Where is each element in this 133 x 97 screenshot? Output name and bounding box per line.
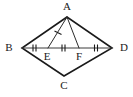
vertex-label-a: A xyxy=(63,0,71,12)
vertex-label-c: C xyxy=(60,79,67,91)
vertex-label-b: B xyxy=(5,41,12,53)
geometry-figure-container: A B C D E F xyxy=(0,0,133,97)
geometry-diagram: A B C D E F xyxy=(0,0,133,97)
vertex-label-e: E xyxy=(44,50,51,62)
vertex-label-d: D xyxy=(120,41,128,53)
vertex-label-f: F xyxy=(76,50,82,62)
